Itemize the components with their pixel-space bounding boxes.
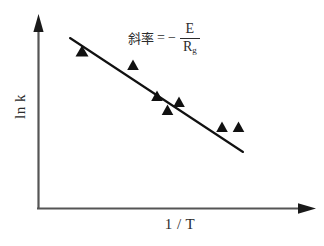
y-axis-arrowhead-icon	[33, 14, 43, 32]
x-axis-arrowhead-icon	[298, 203, 316, 214]
fraction-numerator: E	[183, 22, 198, 38]
minus-sign: −	[168, 31, 176, 45]
fraction-denominator-symbol: R	[183, 39, 192, 54]
slope-word: 斜率	[128, 32, 154, 45]
y-axis-label: ln k	[12, 93, 29, 121]
fraction-denominator: Rg	[180, 39, 200, 55]
data-point-marker	[173, 97, 185, 108]
data-point-marker	[76, 46, 89, 57]
arrhenius-plot-figure: ln k 1 / T 斜率 = − E Rg	[0, 0, 324, 246]
data-point-marker	[127, 60, 139, 71]
x-axis-label: 1 / T	[145, 216, 215, 233]
equals-sign: =	[157, 31, 165, 45]
data-point-marker	[233, 122, 245, 133]
slope-equation-annotation: 斜率 = − E Rg	[128, 22, 200, 54]
activation-energy-fraction: E Rg	[180, 22, 200, 54]
data-point-marker	[216, 122, 228, 133]
fraction-denominator-subscript: g	[192, 45, 197, 55]
